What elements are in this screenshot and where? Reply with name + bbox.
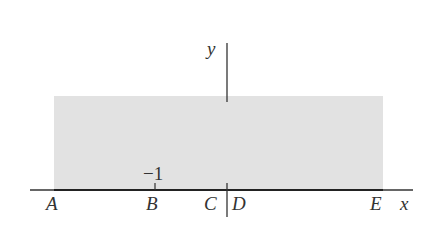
point-e-label: E xyxy=(369,193,382,214)
point-c-label: C xyxy=(204,193,217,214)
point-d-label: D xyxy=(231,193,246,214)
y-axis-label: y xyxy=(205,38,216,59)
tick-label: −1 xyxy=(143,163,163,184)
diagram-canvas: y x −1 A B C D E xyxy=(0,0,439,231)
point-b-label: B xyxy=(146,193,158,214)
point-a-label: A xyxy=(44,193,58,214)
shaded-region xyxy=(54,96,383,190)
x-axis-label: x xyxy=(399,193,409,214)
